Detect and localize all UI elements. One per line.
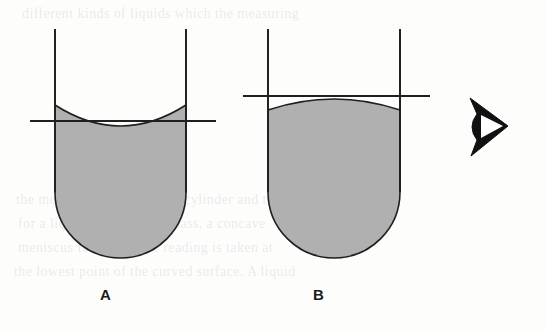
eye-icon bbox=[470, 98, 508, 156]
tube-b-liquid-fill bbox=[268, 99, 400, 258]
figure-label-b: B bbox=[313, 287, 324, 302]
tube-a-liquid-fill bbox=[55, 105, 186, 258]
figure-container: different kinds of liquids which the mea… bbox=[0, 0, 546, 331]
figure-label-a: A bbox=[100, 287, 111, 302]
tube-b-group bbox=[243, 29, 430, 258]
tube-a-group bbox=[30, 29, 216, 258]
meniscus-diagram bbox=[0, 0, 546, 331]
